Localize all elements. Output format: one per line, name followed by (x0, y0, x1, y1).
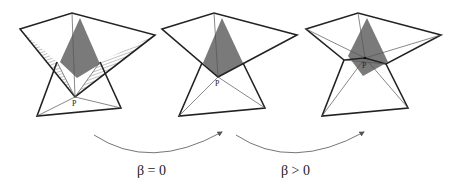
panel-1 (20, 13, 155, 116)
panel-3 (306, 13, 441, 116)
point-label-p1: P (72, 99, 76, 108)
transition-arrow-1 (94, 132, 222, 153)
transition-label-beta-positive: β > 0 (281, 163, 310, 179)
shaded-region (348, 18, 388, 76)
transition-label-beta-zero: β = 0 (137, 163, 166, 179)
transition-arrow-2 (236, 132, 364, 153)
shaded-region (60, 18, 100, 78)
shaded-region (203, 18, 243, 77)
panel-2 (162, 13, 297, 116)
diagram: P P P β = 0 β > 0 (0, 0, 464, 185)
point-label-p2: P (215, 79, 219, 88)
point-label-p3: P (362, 61, 366, 70)
diagram-svg (0, 0, 464, 185)
